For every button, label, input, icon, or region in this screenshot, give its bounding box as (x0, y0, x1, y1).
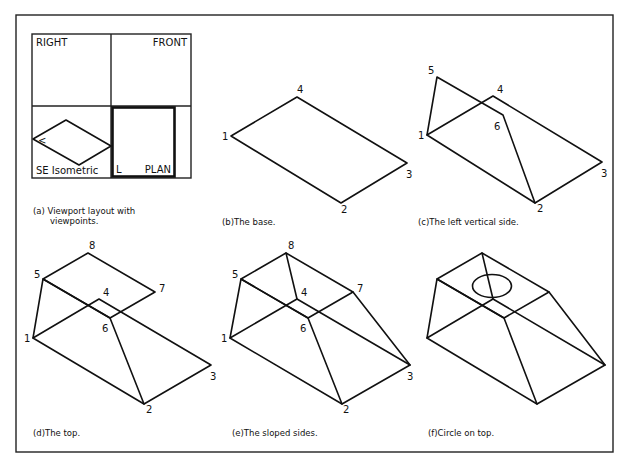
vertex-label-2: 2 (343, 404, 349, 415)
caption-f: (f)Circle on top. (428, 428, 494, 438)
vertex-label-6: 6 (102, 323, 108, 334)
vertex-label-8: 8 (89, 240, 95, 251)
panel-e-sloped-sides: 8 5 7 4 6 1 3 2 (e)The sloped sides. (221, 240, 413, 438)
top-outline (437, 253, 549, 318)
vertex-label-2: 2 (537, 203, 543, 214)
top-outline (43, 253, 155, 318)
vertex-label-1: 1 (24, 333, 30, 344)
caption-e: (e)The sloped sides. (232, 428, 318, 438)
viewport-label-se-isometric: SE Isometric (36, 165, 98, 176)
panel-f-circle-on-top: (f)Circle on top. (427, 253, 605, 438)
caption-a-line1: (a) Viewport layout with (33, 206, 135, 216)
vertex-label-2: 2 (146, 404, 152, 415)
base-outline (33, 299, 211, 404)
viewport-label-plan: PLAN (145, 164, 171, 175)
outer-frame (16, 15, 613, 452)
vertex-label-3: 3 (406, 169, 412, 180)
vertex-label-5: 5 (232, 269, 238, 280)
left-side-outline (427, 279, 537, 404)
vertex-label-2: 2 (341, 204, 347, 215)
panel-a-viewport-layout: RIGHT FRONT SE Isometric PLAN < L (a) Vi… (32, 34, 191, 226)
left-side-outline (427, 77, 535, 203)
vertex-label-7: 7 (159, 283, 165, 294)
base-outline (231, 97, 407, 203)
vertex-label-4: 4 (297, 84, 303, 95)
vertex-label-6: 6 (300, 323, 306, 334)
vertex-label-5: 5 (34, 269, 40, 280)
vertex-label-4: 4 (103, 287, 109, 298)
panel-d-top: 8 5 7 4 6 1 3 2 (d)The top. (24, 240, 216, 438)
caption-a-line2: viewpoints. (50, 216, 98, 226)
base-outline (427, 96, 602, 203)
caption-d: (d)The top. (33, 428, 80, 438)
viewport-label-right: RIGHT (36, 37, 68, 48)
vertex-label-3: 3 (407, 371, 413, 382)
viewport-label-front: FRONT (153, 37, 188, 48)
vertex-label-1: 1 (418, 130, 424, 141)
vertex-label-3: 3 (210, 371, 216, 382)
vertex-label-5: 5 (428, 65, 434, 76)
base-outline (230, 299, 410, 404)
ucs-icon-iso: < (38, 135, 46, 146)
panel-c-left-vertical-side: 5 4 6 1 3 2 (c)The left vertical side. (418, 65, 607, 227)
vertex-label-3: 3 (601, 168, 607, 179)
left-side-outline (33, 279, 144, 404)
sloped-edge-8-4 (286, 253, 297, 299)
top-outline (241, 253, 353, 318)
vertex-label-7: 7 (357, 283, 363, 294)
sloped-edge-7-3 (549, 292, 605, 365)
vertex-label-4: 4 (497, 84, 503, 95)
sloped-edge-7-3 (353, 292, 410, 365)
vertex-label-1: 1 (221, 333, 227, 344)
left-side-outline (230, 279, 342, 404)
ucs-icon-plan: L (116, 164, 122, 175)
figure-canvas: RIGHT FRONT SE Isometric PLAN < L (a) Vi… (0, 0, 629, 462)
vertex-label-6: 6 (494, 121, 500, 132)
vertex-label-1: 1 (222, 131, 228, 142)
vertex-label-4: 4 (301, 287, 307, 298)
vertex-label-8: 8 (288, 240, 294, 251)
panel-b-base: 1 4 3 2 (b)The base. (222, 84, 412, 227)
caption-b: (b)The base. (222, 217, 276, 227)
caption-c: (c)The left vertical side. (418, 217, 519, 227)
